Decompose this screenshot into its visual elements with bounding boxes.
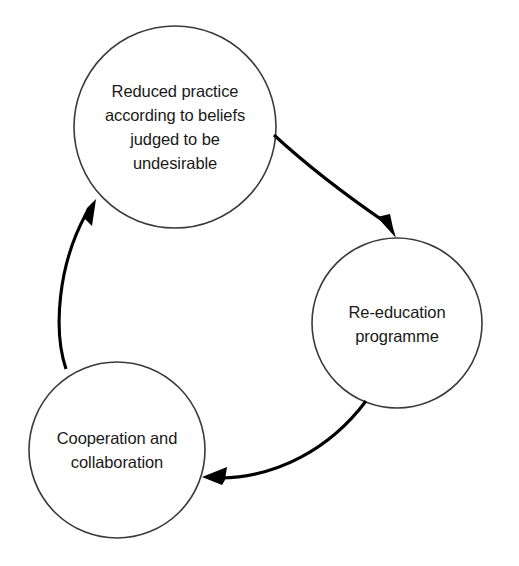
node-circle-reduced-practice (74, 26, 276, 228)
arrow-path-reduced-to-reeducation (274, 135, 385, 222)
arrow-head-cooperation-to-reduced (83, 199, 96, 226)
node-circle-cooperation (29, 362, 205, 538)
cycle-diagram: Reduced practice according to beliefs ju… (0, 0, 519, 566)
node-circle-re-education (312, 238, 482, 408)
arrow-head-reeducation-to-cooperation (202, 467, 227, 485)
arrow-path-cooperation-to-reduced (59, 214, 86, 369)
diagram-canvas (0, 0, 519, 566)
arrow-head-reduced-to-reeducation (377, 214, 396, 238)
arrow-path-reeducation-to-cooperation (221, 401, 366, 478)
